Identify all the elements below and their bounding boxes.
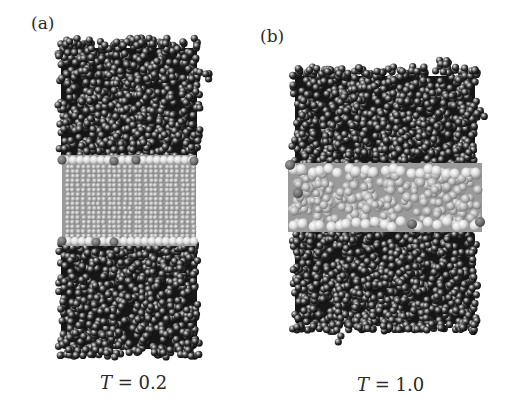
bead	[470, 274, 477, 281]
panel-b-label: (b)	[260, 28, 284, 45]
bead	[66, 289, 73, 296]
bead	[165, 206, 170, 211]
bead	[90, 79, 97, 86]
bead	[423, 235, 430, 242]
bead	[147, 303, 154, 310]
bead	[83, 148, 90, 155]
bead	[112, 113, 119, 120]
bead	[60, 126, 67, 133]
bead	[81, 169, 86, 174]
bead	[346, 256, 353, 263]
bead	[481, 113, 488, 120]
bead	[361, 219, 371, 229]
bead	[165, 178, 170, 183]
bead	[368, 167, 378, 177]
bead	[82, 183, 87, 188]
bead	[447, 263, 454, 270]
bead	[327, 79, 334, 86]
bead	[140, 53, 147, 60]
bead	[117, 206, 122, 211]
bead	[387, 222, 397, 232]
bead	[76, 229, 81, 234]
bead	[138, 192, 143, 197]
bead	[71, 211, 76, 216]
bead	[320, 201, 328, 209]
bead	[315, 166, 325, 176]
bead	[185, 165, 190, 170]
bead	[173, 325, 180, 332]
bead	[156, 118, 163, 125]
bead	[81, 165, 86, 170]
bead	[138, 201, 143, 206]
panel-b-snapshot	[285, 57, 488, 346]
bead	[169, 224, 174, 229]
bead	[71, 174, 76, 179]
bead	[175, 169, 180, 174]
bead	[117, 91, 124, 98]
bead	[174, 197, 179, 202]
bead	[136, 91, 143, 98]
bead	[180, 188, 185, 193]
bead	[86, 36, 93, 43]
bead	[191, 178, 196, 183]
bead	[389, 243, 396, 250]
panel-a-caption: T = 0.2	[100, 374, 167, 392]
bead	[163, 249, 170, 256]
bead	[315, 311, 322, 318]
bead	[149, 201, 154, 206]
bead	[332, 168, 342, 178]
bead	[169, 201, 174, 206]
bead	[432, 220, 442, 230]
bead	[341, 93, 348, 100]
bead	[83, 79, 90, 86]
bead	[123, 183, 128, 188]
bead	[174, 45, 181, 52]
bead	[92, 220, 97, 225]
bead	[123, 220, 128, 225]
bead	[108, 102, 115, 109]
bead	[407, 219, 417, 229]
bead	[102, 206, 107, 211]
bead	[300, 97, 307, 104]
bead	[61, 284, 68, 291]
bead	[117, 220, 122, 225]
bead	[191, 35, 198, 42]
bead	[146, 89, 153, 96]
bead	[140, 139, 147, 146]
bead	[138, 206, 143, 211]
bead	[374, 271, 381, 278]
bead	[159, 169, 164, 174]
bead	[441, 307, 448, 314]
bead	[132, 286, 139, 293]
bead	[399, 68, 406, 75]
bead	[159, 308, 166, 315]
bead	[78, 98, 85, 105]
bead	[474, 110, 481, 117]
bead	[335, 338, 342, 345]
bead	[91, 211, 96, 216]
bead	[465, 149, 472, 156]
bead	[146, 260, 153, 267]
bead	[448, 92, 455, 99]
bead	[345, 206, 353, 214]
bead	[112, 229, 117, 234]
bead	[451, 289, 458, 296]
bead	[446, 321, 453, 328]
bead	[405, 264, 412, 271]
bead	[396, 269, 403, 276]
bead	[65, 224, 70, 229]
bead	[311, 293, 318, 300]
bead	[342, 297, 349, 304]
bead	[344, 282, 351, 289]
bead	[111, 353, 118, 360]
bead	[121, 98, 128, 105]
bead	[87, 211, 92, 216]
bead	[323, 326, 330, 333]
bead	[112, 220, 117, 225]
bead	[295, 180, 303, 188]
bead	[388, 317, 395, 324]
bead	[181, 206, 186, 211]
bead	[159, 299, 166, 306]
bead	[376, 307, 383, 314]
bead	[179, 91, 186, 98]
